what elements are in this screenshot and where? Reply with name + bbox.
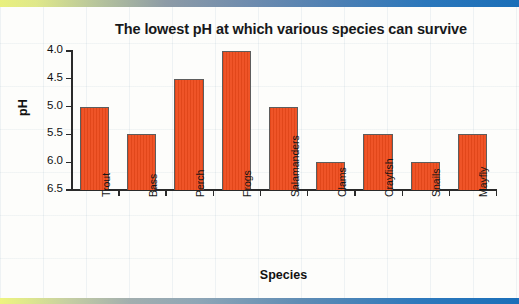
bottom-accent-bar (0, 298, 519, 304)
y-axis-label: pH (16, 99, 30, 116)
x-axis-label: Species (71, 268, 496, 282)
bar (222, 51, 251, 190)
x-axis-tick (213, 190, 214, 196)
y-axis-tick (66, 78, 72, 79)
bar-chart: The lowest pH at which various species c… (18, 16, 506, 292)
x-axis-tick (402, 190, 403, 196)
category-label: Crayfish (383, 158, 395, 197)
top-accent-bar (0, 0, 519, 7)
y-axis-line (71, 50, 73, 191)
x-axis-tick (118, 190, 119, 196)
category-label: Trout (100, 173, 112, 197)
category-label: Perch (194, 170, 206, 197)
y-axis-tick-label: 4.5 (33, 71, 63, 83)
y-axis-tick-label: 5.5 (33, 126, 63, 138)
category-label: Frogs (241, 170, 253, 197)
x-axis-tick (354, 190, 355, 196)
category-label: Snails (430, 168, 442, 197)
x-axis-tick (260, 190, 261, 196)
y-axis-tick (66, 162, 72, 163)
x-axis-tick (307, 190, 308, 196)
y-axis-tick-label: 4.0 (33, 43, 63, 55)
x-axis-tick (496, 190, 497, 196)
y-axis-tick (66, 134, 72, 135)
y-axis-tick (66, 189, 72, 190)
category-label: Mayfly (477, 167, 489, 197)
x-axis-tick (449, 190, 450, 196)
y-axis-tick-label: 6.0 (33, 154, 63, 166)
y-axis-tick (66, 50, 72, 51)
category-label: Bass (147, 174, 159, 197)
plot-area: 4.04.55.05.56.06.5 TroutBassPerchFrogsSa… (71, 51, 496, 190)
slide-canvas: The lowest pH at which various species c… (0, 0, 519, 304)
y-axis-tick (66, 106, 72, 107)
chart-title: The lowest pH at which various species c… (76, 21, 506, 37)
category-label: Clams (336, 167, 348, 197)
x-axis-tick (165, 190, 166, 196)
y-axis-tick-label: 6.5 (33, 182, 63, 194)
y-axis-tick-label: 5.0 (33, 99, 63, 111)
category-label: Salamanders (289, 135, 301, 197)
